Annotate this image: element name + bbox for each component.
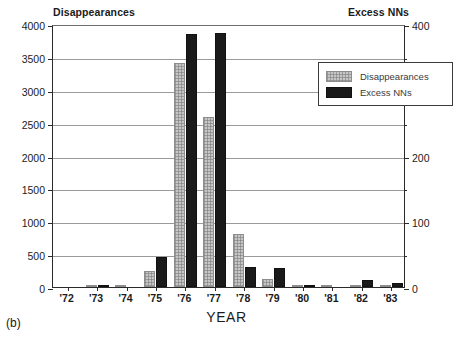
bar-excess-nns <box>304 285 315 287</box>
bar-disappearances <box>144 271 155 287</box>
left-axis-title: Disappearances <box>53 6 135 18</box>
x-tick-label: '83 <box>383 292 397 304</box>
legend-swatch-excess-nns <box>326 87 352 98</box>
right-tick <box>404 289 409 290</box>
legend-label-excess-nns: Excess NNs <box>360 87 412 98</box>
bar-disappearances <box>380 285 391 287</box>
right-tick-label: 400 <box>412 20 430 32</box>
bar-excess-nns <box>186 34 197 287</box>
right-tick <box>404 223 409 224</box>
bar-disappearances <box>292 285 303 287</box>
right-minor-tick <box>404 59 407 60</box>
x-axis-title: YEAR <box>0 309 453 325</box>
right-minor-tick <box>404 190 407 191</box>
x-tick <box>185 287 186 291</box>
bar-disappearances <box>86 285 97 287</box>
bar-excess-nns <box>215 33 226 287</box>
left-tick <box>48 59 53 60</box>
x-tick-label: '72 <box>60 292 74 304</box>
left-tick-label: 3000 <box>22 86 45 98</box>
x-tick <box>332 287 333 291</box>
bar-disappearances <box>262 279 273 287</box>
x-tick-label: '78 <box>236 292 250 304</box>
bar-disappearances <box>350 285 361 287</box>
panel-label: (b) <box>6 316 21 330</box>
legend-item-disappearances: Disappearances <box>326 68 445 84</box>
x-tick <box>303 287 304 291</box>
x-tick <box>97 287 98 291</box>
bar-disappearances <box>203 117 214 287</box>
bar-excess-nns <box>392 283 403 287</box>
x-tick-label: '79 <box>266 292 280 304</box>
bar-disappearances <box>115 285 126 287</box>
gridline <box>53 158 404 159</box>
x-tick <box>68 287 69 291</box>
bar-excess-nns <box>362 280 373 287</box>
figure-panel-b: Disappearances Excess NNs 05001000150020… <box>0 0 453 343</box>
left-tick-label: 2500 <box>22 119 45 131</box>
x-tick <box>215 287 216 291</box>
x-tick-label: '80 <box>295 292 309 304</box>
legend-swatch-disappearances <box>326 71 352 82</box>
left-tick <box>48 256 53 257</box>
x-tick <box>391 287 392 291</box>
x-tick <box>274 287 275 291</box>
chart-legend: Disappearances Excess NNs <box>318 62 453 106</box>
gridline <box>53 256 404 257</box>
x-tick-label: '73 <box>89 292 103 304</box>
bar-excess-nns <box>245 267 256 287</box>
x-tick <box>127 287 128 291</box>
left-tick-label: 3500 <box>22 53 45 65</box>
left-tick <box>48 223 53 224</box>
x-tick-label: '77 <box>207 292 221 304</box>
legend-item-excess-nns: Excess NNs <box>326 84 445 100</box>
x-tick <box>156 287 157 291</box>
right-tick <box>404 26 409 27</box>
x-tick-label: '74 <box>118 292 132 304</box>
gridline <box>53 223 404 224</box>
gridline <box>53 59 404 60</box>
x-tick-label: '76 <box>177 292 191 304</box>
left-tick <box>48 26 53 27</box>
right-tick <box>404 158 409 159</box>
left-tick-label: 4000 <box>22 20 45 32</box>
bar-disappearances <box>321 285 332 287</box>
left-tick-label: 1500 <box>22 184 45 196</box>
bar-disappearances <box>174 63 185 287</box>
left-tick-label: 2000 <box>22 152 45 164</box>
right-tick-label: 100 <box>412 217 430 229</box>
left-tick-label: 0 <box>39 283 45 295</box>
right-minor-tick <box>404 256 407 257</box>
x-tick-label: '81 <box>324 292 338 304</box>
x-tick-label: '75 <box>148 292 162 304</box>
bar-excess-nns <box>98 285 109 287</box>
left-tick <box>48 92 53 93</box>
plot-area: 05001000150020002500300035004000 0100200… <box>52 25 405 288</box>
gridline <box>53 125 404 126</box>
right-minor-tick <box>404 125 407 126</box>
left-tick-label: 500 <box>27 250 45 262</box>
left-tick-label: 1000 <box>22 217 45 229</box>
x-tick <box>244 287 245 291</box>
right-tick-label: 0 <box>412 283 418 295</box>
left-tick <box>48 190 53 191</box>
legend-label-disappearances: Disappearances <box>360 71 429 82</box>
x-tick <box>362 287 363 291</box>
bar-disappearances <box>233 234 244 287</box>
bar-excess-nns <box>156 257 167 287</box>
left-tick <box>48 289 53 290</box>
gridline <box>53 190 404 191</box>
x-tick-label: '82 <box>354 292 368 304</box>
right-axis-title: Excess NNs <box>348 6 409 18</box>
left-tick <box>48 125 53 126</box>
right-tick-label: 200 <box>412 152 430 164</box>
left-tick <box>48 158 53 159</box>
bar-excess-nns <box>274 268 285 287</box>
